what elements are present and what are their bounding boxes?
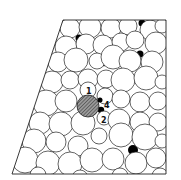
sphere-packing-diagram: 1 4 2	[0, 0, 181, 180]
sphere	[145, 32, 167, 54]
sphere	[55, 90, 77, 112]
highlighted-sphere	[77, 95, 99, 117]
sphere	[155, 134, 169, 148]
label-site-2: 2	[101, 116, 107, 125]
sphere	[61, 71, 79, 89]
sphere	[41, 71, 63, 93]
sphere	[125, 152, 147, 174]
sphere	[155, 19, 169, 33]
sphere	[134, 66, 158, 90]
sphere	[109, 123, 133, 147]
sphere	[149, 92, 167, 110]
label-site-1: 1	[86, 87, 92, 96]
sphere	[80, 148, 104, 172]
packing-area	[12, 16, 169, 180]
sphere	[146, 148, 166, 168]
interstitial-void	[98, 98, 103, 103]
sphere	[132, 124, 158, 150]
sphere	[155, 75, 169, 89]
sphere	[91, 128, 107, 144]
sphere	[64, 48, 88, 72]
label-site-4: 4	[104, 101, 110, 110]
sphere	[111, 68, 135, 92]
sphere	[130, 92, 150, 112]
sphere	[102, 148, 124, 170]
sphere	[30, 167, 46, 180]
sphere	[46, 132, 66, 152]
sphere	[112, 90, 130, 108]
sphere	[126, 31, 144, 49]
